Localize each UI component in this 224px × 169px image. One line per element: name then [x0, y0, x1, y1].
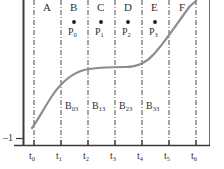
basis-label-b13: B13	[92, 101, 105, 111]
basis-label-b23: B23	[119, 101, 132, 111]
segment-label-a: A	[43, 2, 51, 13]
x-tick-label-t3: t3	[110, 151, 116, 161]
segment-label-d: D	[124, 2, 132, 13]
y-axis-tick-label: –1	[3, 133, 13, 143]
control-point-label-p2: P2	[122, 27, 131, 37]
control-point-label-p0: P0	[68, 27, 77, 37]
basis-label-b33: B33	[146, 101, 159, 111]
x-tick-label-t2: t2	[83, 151, 89, 161]
x-tick-label-t6: t6	[191, 151, 197, 161]
segment-label-b: B	[70, 2, 77, 13]
control-point-dot-p2	[126, 20, 130, 24]
x-tick-label-t4: t4	[137, 151, 143, 161]
x-tick-label-t1: t1	[56, 151, 62, 161]
basis-label-b03: B03	[65, 101, 78, 111]
control-point-dot-p1	[99, 20, 103, 24]
segment-label-f: F	[179, 2, 185, 13]
control-point-dot-p3	[153, 20, 157, 24]
x-tick-label-t5: t5	[164, 151, 170, 161]
control-point-dot-p0	[72, 20, 76, 24]
segment-label-c: C	[97, 2, 104, 13]
control-point-label-p1: P1	[95, 27, 104, 37]
x-tick-label-t0: t0	[29, 151, 35, 161]
diagram-canvas	[0, 0, 224, 169]
segment-label-e: E	[151, 2, 158, 13]
figure-container: A B C D E F P0 P1 P2 P3 B03 B13 B23 B33 …	[0, 0, 224, 169]
control-point-label-p3: P3	[149, 27, 158, 37]
